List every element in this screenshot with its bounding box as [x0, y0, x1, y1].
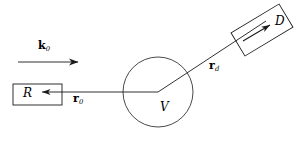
label-scattering-volume: V	[160, 101, 169, 113]
label-r0-vector: r0	[73, 93, 83, 104]
label-source: R	[23, 87, 32, 99]
scattering-geometry-figure: k0 R r0 V rd D	[0, 0, 303, 141]
label-rd-vector: rd	[209, 60, 219, 71]
label-incident-wavevector: k0	[38, 40, 50, 51]
source-box	[13, 84, 62, 105]
rd-vector-line	[158, 21, 266, 92]
diagram-canvas	[0, 0, 303, 141]
label-detector: D	[275, 15, 285, 27]
